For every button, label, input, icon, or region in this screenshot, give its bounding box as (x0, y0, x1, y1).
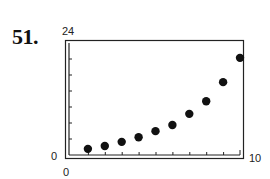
data-point (202, 97, 210, 105)
data-point (101, 142, 109, 150)
plot-frame-outer (66, 41, 244, 159)
data-point (151, 127, 159, 135)
data-point (185, 110, 193, 118)
scatter-plot (0, 0, 270, 179)
data-point (84, 145, 92, 153)
data-point (118, 138, 126, 146)
axis-ticks (69, 59, 224, 155)
data-point (219, 78, 227, 86)
data-point (236, 54, 244, 62)
data-point (168, 121, 176, 129)
data-points (84, 54, 245, 153)
data-point (134, 133, 142, 141)
